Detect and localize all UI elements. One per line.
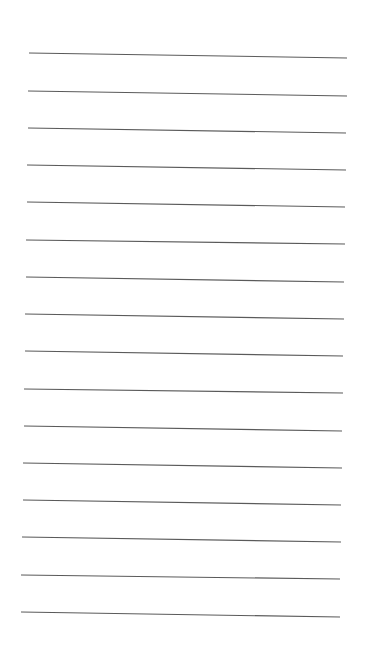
lined-paper: [0, 0, 366, 648]
paper-background: [0, 0, 366, 648]
